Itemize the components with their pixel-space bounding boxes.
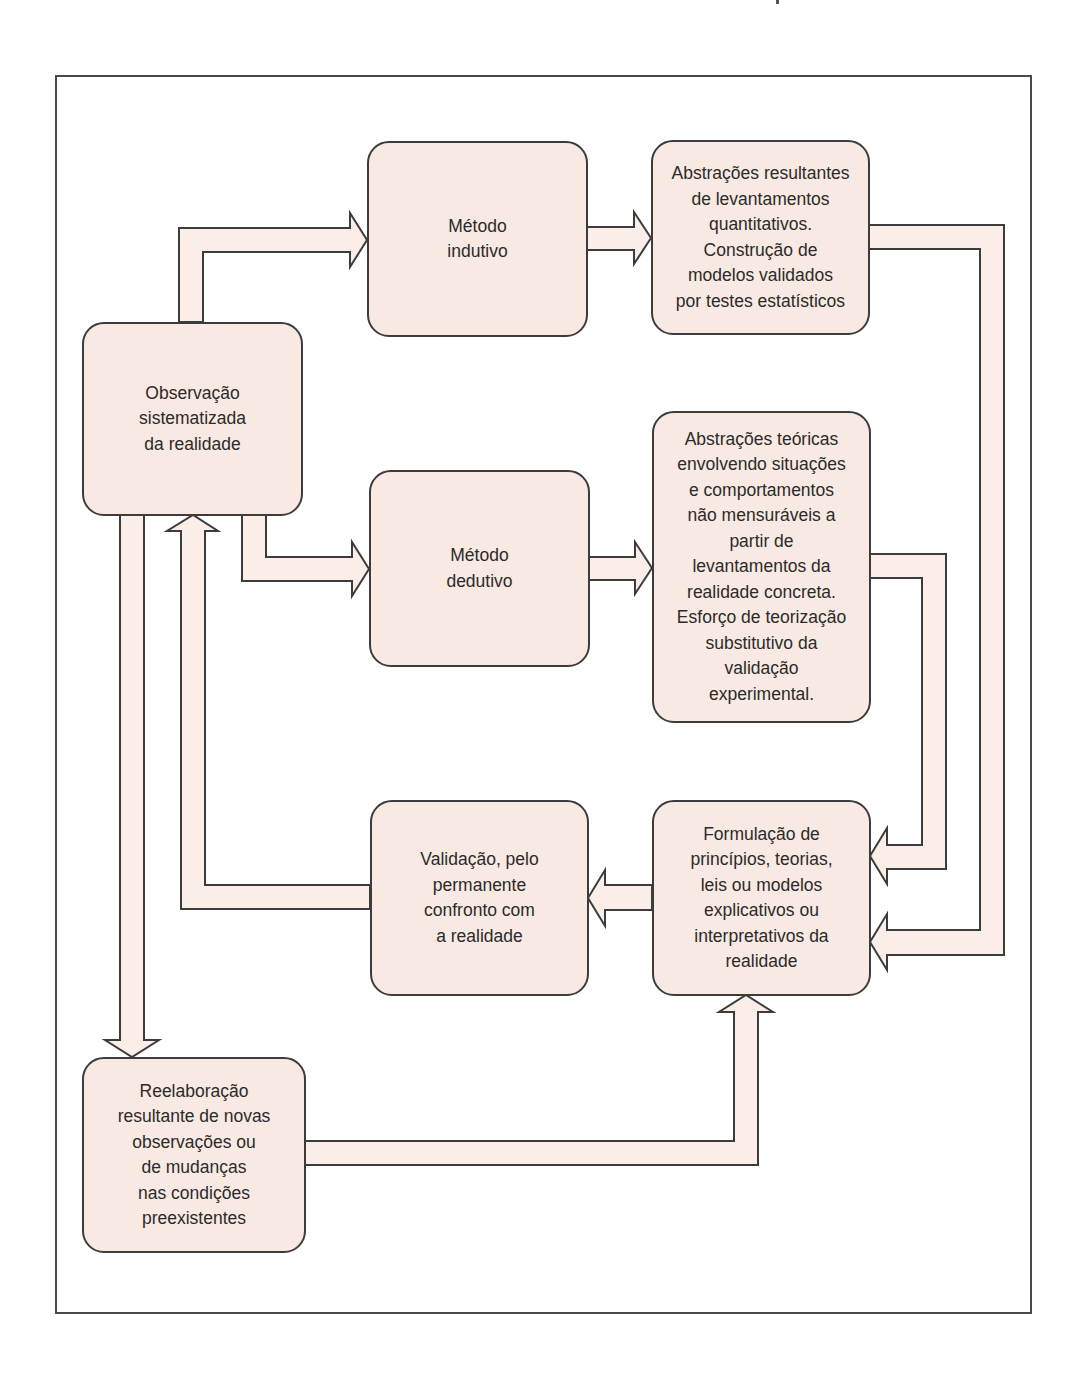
node-metodo-indutivo: Método indutivo bbox=[367, 141, 588, 337]
arrow-observacao-to-dedutivo bbox=[242, 515, 369, 596]
node-validacao-label: Validação, pelo permanente confronto com… bbox=[420, 847, 538, 949]
node-reelaboracao-label: Reelaboração resultante de novas observa… bbox=[118, 1079, 271, 1232]
node-abstracoes-teoricas: Abstrações teóricas envolvendo situações… bbox=[652, 411, 871, 723]
node-abstracoes-resultantes-label: Abstrações resultantes de levantamentos … bbox=[671, 161, 849, 314]
node-observacao: Observação sistematizada da realidade bbox=[82, 322, 303, 516]
node-formulacao: Formulação de princípios, teorias, leis … bbox=[652, 800, 871, 996]
node-metodo-dedutivo-label: Método dedutivo bbox=[446, 543, 512, 594]
arrow-observacao-to-reelaboracao bbox=[105, 515, 159, 1057]
node-formulacao-label: Formulação de princípios, teorias, leis … bbox=[690, 822, 832, 975]
node-abstracoes-teoricas-label: Abstrações teóricas envolvendo situações… bbox=[677, 427, 846, 708]
arrow-formulacao-to-validacao bbox=[588, 870, 652, 926]
node-abstracoes-resultantes: Abstrações resultantes de levantamentos … bbox=[651, 140, 870, 335]
node-reelaboracao: Reelaboração resultante de novas observa… bbox=[82, 1057, 306, 1253]
node-metodo-indutivo-label: Método indutivo bbox=[447, 214, 507, 265]
arrow-reelaboracao-to-formulacao bbox=[305, 995, 773, 1165]
node-validacao: Validação, pelo permanente confronto com… bbox=[370, 800, 589, 996]
arrow-observacao-to-indutivo bbox=[179, 213, 367, 322]
arrow-teoricas-to-formulacao bbox=[870, 554, 946, 884]
arrow-indutivo-to-resultantes bbox=[587, 212, 651, 264]
arrow-dedutivo-to-teoricas bbox=[589, 542, 652, 594]
node-observacao-label: Observação sistematizada da realidade bbox=[139, 381, 246, 458]
node-metodo-dedutivo: Método dedutivo bbox=[369, 470, 590, 667]
